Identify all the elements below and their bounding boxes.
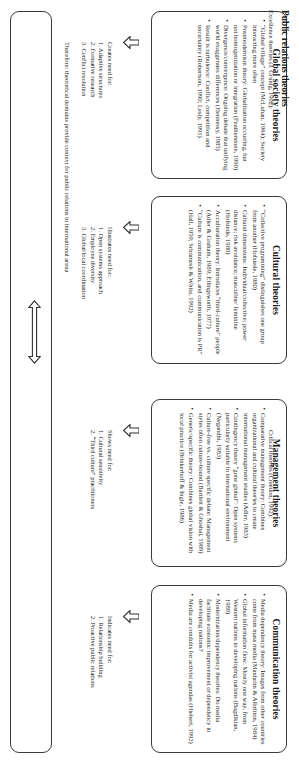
therefore-statement: Therefore: theoretical domains provide c…: [64, 42, 71, 272]
list-item: 2. Employee diversity: [88, 227, 97, 377]
list-item: 1. Cultural sensitivity: [97, 430, 106, 580]
list-item: Media dependency theory: Images from oth…: [250, 593, 267, 745]
needs-communication: Indicates need for: 1. Relationship buil…: [88, 616, 114, 766]
diagram-canvas: Global society theories “Global village”…: [0, 0, 299, 771]
needs-heading: Indicates need for:: [105, 616, 114, 766]
bullet-list: Comparative management theory: Combines …: [178, 407, 267, 559]
list-item: “Global village” concept (McLuhan, 1964)…: [250, 19, 267, 171]
list-item: Divergence/convergence: Ongoing debate t…: [213, 19, 230, 171]
needs-heading: Illustrates need for:: [105, 227, 114, 377]
bullet-list: “Collective programming” distinguishes o…: [187, 204, 268, 356]
box-public-relations-theories: [10, 11, 52, 753]
down-arrow-icon: [123, 610, 139, 623]
box-communication-theories: Communication theories Media dependency …: [151, 585, 287, 753]
box-management-theories: Management theories Comparative manageme…: [151, 399, 287, 567]
down-arrow-icon: [123, 221, 139, 234]
list-item: Contingency theory “gone global”: Open s…: [215, 407, 241, 559]
pr-box-title: Public relations theories: [280, 10, 290, 107]
list-item: 2. “Third culture” practitioners: [88, 430, 97, 580]
down-arrow-icon: [123, 424, 139, 437]
double-headed-arrow-icon: [28, 300, 41, 364]
needs-cultural: Illustrates need for: 1. Open systems ap…: [80, 227, 114, 377]
list-item: “Culture is communication, and communica…: [187, 204, 204, 356]
diagram-rotation-wrapper: Global society theories “Global village”…: [0, 0, 299, 771]
list-item: Culture-free vs. culture specific debate…: [196, 407, 213, 559]
list-item: Result is turbulence: Conflict, competit…: [195, 19, 212, 171]
list-item: 1. Open systems approach: [97, 227, 106, 377]
bullet-list: “Global village” concept (McLuhan, 1964)…: [195, 19, 267, 171]
list-item: Postmodernism theory: Globalization occu…: [232, 19, 249, 171]
list-item: Global information flow: Mostly one way,…: [223, 593, 249, 745]
needs-management: Shows need for: 1. Cultural sensitivity …: [88, 430, 114, 580]
list-item: Comparative management theory: Combines …: [241, 407, 267, 559]
list-item: 2. Formative research: [88, 42, 97, 192]
list-item: Cultural dimensions: Individual/collecti…: [223, 204, 249, 356]
list-item: 1. Adaptive structures: [97, 42, 106, 192]
box-title: Cultural theories: [270, 204, 280, 356]
needs-list: 1. Adaptive structures 2. Formative rese…: [80, 42, 106, 192]
box-cultural-theories: Cultural theories “Collective programmin…: [151, 196, 287, 364]
needs-list: 1. Open systems approach 2. Employee div…: [80, 227, 106, 377]
list-item: “Collective programming” distinguishes o…: [250, 204, 267, 356]
list-item: 3. Conflict resolution: [80, 42, 89, 192]
box-global-society-theories: Global society theories “Global village”…: [151, 11, 287, 179]
list-item: 2. Proactive public relations: [88, 616, 97, 766]
list-item: 1. Relationship building: [97, 616, 106, 766]
down-arrow-icon: [123, 36, 139, 49]
needs-global-society: Creates need for: 1. Adaptive structures…: [80, 42, 114, 192]
list-item: Generic/specific theory: Combines global…: [178, 407, 195, 559]
needs-heading: Creates need for:: [105, 42, 114, 192]
bullet-list: Media dependency theory: Images from oth…: [187, 593, 268, 745]
list-item: Acculturation theory: Introduces “third-…: [205, 204, 222, 356]
list-item: Media are conduits for activist agendas …: [187, 593, 196, 745]
needs-heading: Shows need for:: [105, 430, 114, 580]
list-item: Modernization/dependency theories: Do me…: [196, 593, 222, 745]
box-title: Communication theories: [270, 593, 280, 745]
list-item: 3. Global/local coordination: [80, 227, 89, 377]
pr-excellence-theories: Excellence theories (J. Grunig, 1992):: [268, 10, 275, 109]
needs-list: 1. Relationship building 2. Proactive pu…: [88, 616, 105, 766]
needs-list: 1. Cultural sensitivity 2. “Third cultur…: [88, 430, 105, 580]
pr-critical-theories: Critical theories (Creedon, 1992):: [268, 430, 275, 518]
